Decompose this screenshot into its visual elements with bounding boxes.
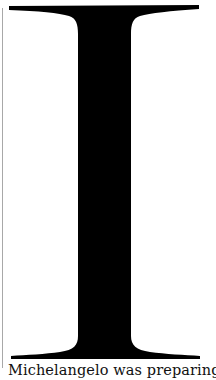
body-paragraph-first-line: Michelangelo was preparing to un	[8, 360, 216, 380]
document-page: Michelangelo was preparing to un	[0, 0, 216, 380]
drop-cap-letter-i	[0, 0, 216, 370]
